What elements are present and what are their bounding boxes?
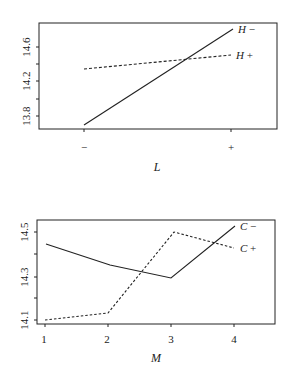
series-h-minus-line bbox=[84, 29, 233, 125]
top-chart: 14.6 14.2 13.8 − + L H − H + bbox=[20, 23, 277, 174]
bottom-xtick-1: 1 bbox=[41, 333, 47, 345]
bottom-x-axis-title: M bbox=[150, 351, 162, 365]
legend-c-minus: C − bbox=[240, 220, 256, 232]
bottom-xtick-3: 3 bbox=[168, 333, 174, 345]
bottom-xtick-4: 4 bbox=[231, 333, 237, 345]
top-ytick-14.2: 14.2 bbox=[20, 71, 32, 90]
legend-h-plus-sign: + bbox=[244, 49, 253, 61]
top-ytick-14.6: 14.6 bbox=[20, 37, 32, 57]
top-x-axis-title: L bbox=[153, 160, 161, 174]
bottom-plot-frame bbox=[37, 220, 275, 324]
bottom-xtick-2: 2 bbox=[104, 333, 110, 345]
top-xtick-minus: − bbox=[81, 141, 87, 153]
legend-c-minus-sign: − bbox=[247, 220, 256, 232]
top-xtick-plus: + bbox=[228, 141, 234, 153]
series-h-plus-line bbox=[84, 55, 231, 69]
legend-c-plus: C + bbox=[240, 242, 256, 254]
bottom-chart: 14.5 14.3 14.1 1 2 3 4 M C − C + bbox=[18, 220, 275, 365]
bottom-ytick-14.1: 14.1 bbox=[18, 310, 30, 329]
top-ytick-13.8: 13.8 bbox=[20, 106, 32, 126]
series-c-minus-line bbox=[46, 226, 235, 278]
legend-c-plus-sign: + bbox=[247, 242, 256, 254]
top-plot-frame bbox=[39, 23, 277, 129]
legend-h-minus-sign: − bbox=[246, 23, 255, 35]
figure: 14.6 14.2 13.8 − + L H − H + bbox=[0, 0, 293, 371]
legend-h-plus: H + bbox=[235, 49, 253, 61]
series-c-plus-line bbox=[45, 232, 234, 320]
bottom-ytick-14.5: 14.5 bbox=[18, 222, 30, 242]
bottom-ytick-14.3: 14.3 bbox=[18, 267, 30, 287]
legend-h-minus: H − bbox=[237, 23, 255, 35]
